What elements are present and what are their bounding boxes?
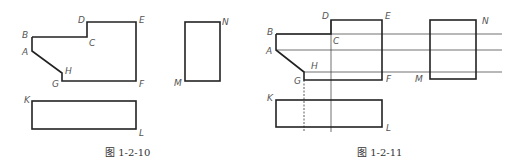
label-N: N — [222, 17, 229, 27]
label-K: K — [267, 93, 274, 103]
label-L: L — [386, 123, 391, 133]
label-B: B — [267, 27, 273, 37]
label-M: M — [415, 74, 423, 84]
drawing-canvas: A B C D E F G H K L M N 图 1-2-10 A B C D… — [0, 0, 526, 165]
label-D: D — [78, 15, 85, 25]
label-D: D — [322, 11, 329, 21]
label-E: E — [385, 11, 391, 21]
figure-1-2-10: A B C D E F G H K L M N 图 1-2-10 — [21, 15, 229, 158]
label-K: K — [24, 95, 31, 105]
label-A: A — [265, 46, 272, 56]
label-C: C — [89, 38, 96, 48]
label-B: B — [22, 30, 28, 40]
front-view-outline — [32, 22, 136, 81]
figure-caption: 图 1-2-11 — [357, 147, 402, 158]
label-A: A — [21, 47, 28, 57]
side-view-rect-MN — [185, 22, 220, 81]
label-H: H — [65, 66, 72, 76]
side-view-rect-MN — [430, 20, 476, 79]
label-G: G — [294, 76, 301, 86]
label-F: F — [386, 74, 392, 84]
label-F: F — [139, 79, 145, 89]
label-M: M — [174, 78, 182, 88]
label-G: G — [52, 79, 59, 89]
label-N: N — [482, 16, 489, 26]
top-view-rect-KL — [276, 100, 382, 127]
label-E: E — [139, 15, 145, 25]
top-view-rect-KL — [32, 101, 136, 129]
figure-1-2-11: A B C D E F G H K L M N 图 1-2-11 — [265, 11, 502, 158]
label-C: C — [333, 36, 340, 46]
label-H: H — [311, 61, 318, 71]
figure-caption: 图 1-2-10 — [105, 147, 150, 158]
label-L: L — [139, 128, 144, 138]
